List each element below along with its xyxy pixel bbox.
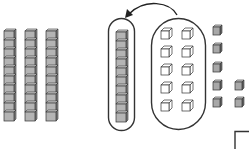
tens-rod-1 (4, 29, 16, 121)
regroup-arrow-icon (125, 4, 177, 18)
tens-rod-2 (25, 29, 37, 121)
ones-loop (152, 19, 206, 130)
circled-ten-ones (161, 28, 193, 111)
tens-rod-3 (46, 29, 58, 121)
base-ten-diagram (0, 0, 249, 149)
answer-box (235, 132, 249, 150)
circled-tens-rod (116, 30, 128, 122)
loose-ones (213, 25, 244, 107)
